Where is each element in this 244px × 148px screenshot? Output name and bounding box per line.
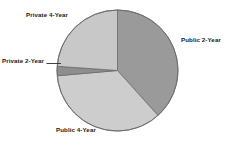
pie-chart-canvas [0, 0, 244, 148]
pie-label-public-2-year: Public 2-Year [181, 36, 221, 44]
pie-label-public-4-year: Public 4-Year [56, 126, 96, 134]
pie-slice-private-4-year [57, 10, 117, 71]
pie-slices-group [57, 10, 178, 131]
pie-label-private-2-year: Private 2-Year [2, 57, 44, 65]
pie-chart: Private 4-Year Public 2-Year Private 2-Y… [0, 0, 244, 148]
pie-label-private-4-year: Private 4-Year [26, 11, 68, 19]
